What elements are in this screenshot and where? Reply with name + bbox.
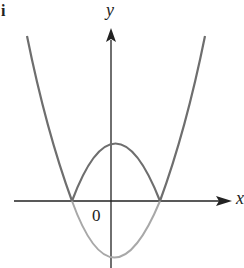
graph-canvas (0, 0, 244, 268)
origin-label: 0 (92, 206, 101, 226)
upper-arch (72, 144, 160, 202)
outer-parabola-right (160, 36, 205, 201)
y-axis-label: y (106, 0, 114, 21)
y-axis-arrow-icon (106, 28, 116, 42)
lower-parabola (72, 201, 160, 258)
corner-label: i (1, 2, 5, 20)
x-axis-label: x (236, 188, 244, 209)
outer-parabola-left (27, 36, 72, 201)
